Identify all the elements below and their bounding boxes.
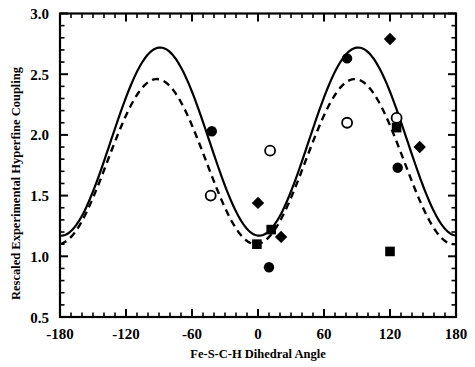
data-point-open-circle bbox=[342, 118, 352, 128]
figure-background bbox=[0, 0, 475, 367]
data-point-filled-circle bbox=[393, 162, 403, 172]
y-tick-label: 0.5 bbox=[30, 310, 49, 326]
y-tick-label: 1.0 bbox=[30, 249, 49, 265]
x-tick-label: 120 bbox=[379, 326, 402, 342]
y-axis-title: Rescaled Experimental Hyperfine Coupling bbox=[9, 66, 23, 300]
data-point-filled-square bbox=[392, 123, 402, 133]
data-point-filled-circle bbox=[264, 262, 274, 272]
data-point-filled-circle bbox=[342, 53, 352, 63]
x-tick-label: -120 bbox=[112, 326, 140, 342]
x-tick-label: 60 bbox=[317, 326, 332, 342]
y-tick-label: 2.0 bbox=[30, 127, 49, 143]
x-tick-label: 180 bbox=[445, 326, 468, 342]
chart-figure: -180-120-600601201800.51.01.52.02.53.0 R… bbox=[0, 0, 475, 367]
x-tick-label: -60 bbox=[182, 326, 202, 342]
data-point-filled-square bbox=[266, 225, 276, 235]
y-tick-label: 2.5 bbox=[30, 67, 49, 83]
x-tick-label: 0 bbox=[254, 326, 262, 342]
data-point-filled-square bbox=[385, 247, 395, 257]
data-point-filled-square bbox=[252, 239, 262, 249]
data-point-open-circle bbox=[206, 191, 216, 201]
x-tick-label: -180 bbox=[46, 326, 74, 342]
data-point-filled-circle bbox=[207, 126, 217, 136]
data-point-open-circle bbox=[265, 146, 275, 156]
y-tick-label: 1.5 bbox=[30, 188, 49, 204]
y-tick-label: 3.0 bbox=[30, 6, 49, 22]
data-point-open-circle bbox=[392, 113, 402, 123]
x-axis-title: Fe-S-C-H Dihedral Angle bbox=[190, 347, 326, 361]
